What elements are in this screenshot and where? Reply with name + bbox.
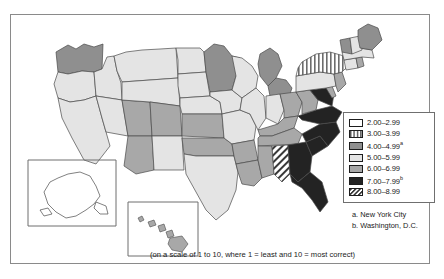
legend-footnote-marker-b: b bbox=[400, 175, 403, 181]
legend-label: 7.00–7.99b bbox=[367, 176, 403, 186]
legend-item[interactable]: 8.00–8.99 bbox=[349, 187, 430, 199]
legend-swatch-3 bbox=[349, 130, 363, 138]
legend-item[interactable]: 3.00–3.99 bbox=[349, 129, 430, 141]
footnotes: a. New York City b. Washington, D.C. bbox=[352, 209, 418, 231]
legend-swatch-8 bbox=[349, 188, 363, 196]
legend-footnote-marker-a: a bbox=[400, 140, 403, 146]
choropleth-figure: 2.00–2.99 3.00–3.99 4.00–4.99a 5.00–5.99… bbox=[0, 0, 444, 279]
state-AK-aleutians bbox=[40, 208, 52, 216]
state-CO bbox=[150, 102, 182, 136]
state-HI bbox=[138, 216, 188, 252]
legend-swatch-2 bbox=[349, 119, 363, 127]
state-OK bbox=[182, 138, 234, 156]
legend-label: 5.00–5.99 bbox=[367, 154, 400, 162]
state-MT bbox=[114, 48, 178, 82]
state-ME bbox=[358, 24, 382, 50]
legend-label: 2.00–2.99 bbox=[367, 119, 400, 127]
state-AZ bbox=[124, 136, 154, 174]
legend-label: 4.00–4.99a bbox=[367, 141, 403, 151]
state-KS bbox=[182, 114, 224, 138]
state-SD bbox=[178, 72, 210, 98]
legend-label-text: 7.00–7.99 bbox=[367, 177, 400, 186]
legend-swatch-6 bbox=[349, 165, 363, 173]
legend-swatch-5 bbox=[349, 154, 363, 162]
state-OR bbox=[54, 71, 96, 102]
legend-label-text: 4.00–4.99 bbox=[367, 142, 400, 151]
legend-label: 3.00–3.99 bbox=[367, 130, 400, 138]
state-AL bbox=[272, 145, 290, 182]
state-NM bbox=[152, 136, 184, 170]
figure-caption: (on a scale of 1 to 10, where 1 = least … bbox=[150, 250, 355, 259]
map-legend: 2.00–2.99 3.00–3.99 4.00–4.99a 5.00–5.99… bbox=[343, 112, 435, 203]
legend-swatch-7 bbox=[349, 177, 363, 185]
state-ND bbox=[176, 48, 206, 74]
state-LA bbox=[236, 160, 262, 186]
state-AK-panhandle bbox=[94, 202, 108, 214]
state-TX bbox=[184, 154, 238, 220]
legend-label: 6.00–6.99 bbox=[367, 165, 400, 173]
legend-item[interactable]: 6.00–6.99 bbox=[349, 163, 430, 175]
legend-item[interactable]: 4.00–4.99a bbox=[349, 140, 430, 152]
state-WA bbox=[56, 44, 103, 74]
footnote-a: a. New York City bbox=[352, 209, 418, 220]
legend-item[interactable]: 5.00–5.99 bbox=[349, 152, 430, 164]
legend-label: 8.00–8.99 bbox=[367, 188, 400, 196]
legend-item[interactable]: 2.00–2.99 bbox=[349, 117, 430, 129]
legend-swatch-4 bbox=[349, 142, 363, 150]
footnote-b: b. Washington, D.C. bbox=[352, 220, 418, 231]
legend-item[interactable]: 7.00–7.99b bbox=[349, 175, 430, 187]
state-AK bbox=[44, 172, 100, 218]
state-NJ bbox=[334, 72, 346, 92]
